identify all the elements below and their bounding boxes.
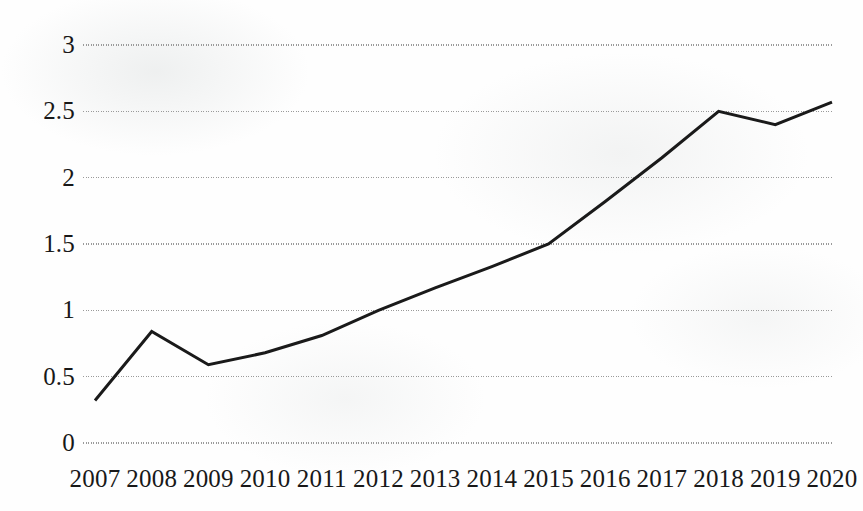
plot-area — [0, 0, 863, 511]
y-tick-label-0.5: 0.5 — [43, 364, 75, 389]
y-tick-label-0: 0 — [62, 430, 75, 455]
line-chart: 00.511.522.53 20072008200920102011201220… — [0, 0, 863, 511]
y-tick-label-2.5: 2.5 — [43, 98, 75, 123]
y-tick-label-2: 2 — [62, 165, 75, 190]
y-tick-label-1.5: 1.5 — [43, 231, 75, 256]
y-tick-label-3: 3 — [62, 32, 75, 57]
y-tick-label-1: 1 — [62, 297, 75, 322]
series-polyline — [95, 102, 832, 401]
gridlines — [83, 45, 832, 443]
data-series-line — [95, 102, 832, 401]
x-tick-label-2020: 2020 — [799, 466, 863, 491]
